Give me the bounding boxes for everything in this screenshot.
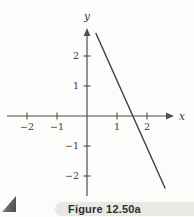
figure-caption-bar: Figure 12.50a [55,202,194,216]
y-axis-label: y [83,10,91,22]
x-tick-label: −1 [50,121,64,132]
figure-panel: −2−112−2−112xy Figure 12.50a [0,0,194,217]
y-tick-label: 1 [73,80,79,91]
figure-caption: Figure 12.50a [55,203,141,215]
x-tick-label: 2 [144,121,150,132]
y-tick-label: −1 [65,140,79,151]
coordinate-plane: −2−112−2−112xy [0,0,194,202]
x-tick-label: −2 [20,121,34,132]
x-axis-label: x [179,110,185,122]
y-tick-label: −2 [65,170,79,181]
plotted-line [96,34,165,189]
y-tick-label: 2 [73,50,79,61]
x-axis-arrowhead-icon [166,113,174,120]
y-axis-arrowhead-icon [84,28,91,36]
x-tick-label: 1 [114,121,120,132]
